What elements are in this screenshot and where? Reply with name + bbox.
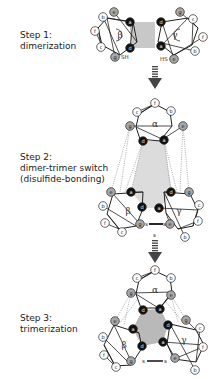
residue-node-f: f	[199, 33, 208, 42]
svg-text:b: b	[101, 14, 104, 20]
residue-node-e: e	[171, 354, 180, 363]
residue-node-g: g	[182, 316, 191, 325]
spoke-line	[107, 18, 115, 57]
svg-text:d: d	[141, 307, 144, 313]
s-label: s	[153, 232, 156, 238]
residue-node-d: d	[139, 306, 148, 315]
dotted-interaction-line	[115, 293, 131, 321]
dotted-interaction-line	[120, 300, 137, 323]
residue-node-a: a	[129, 325, 138, 334]
svg-text:f: f	[154, 267, 156, 273]
svg-text:g: g	[129, 358, 132, 365]
svg-text:a: a	[159, 43, 162, 49]
svg-text:d: d	[140, 343, 143, 349]
residue-node-c: c	[97, 43, 106, 52]
core-regions	[130, 22, 172, 346]
residue-node-e: e	[167, 291, 176, 300]
svg-text:d: d	[140, 204, 143, 210]
svg-text:f: f	[154, 100, 156, 106]
residue-node-c: c	[196, 324, 205, 333]
svg-text:d: d	[128, 45, 131, 51]
residue-node-d: d	[126, 44, 135, 53]
helix-label-step3-alpha: α	[152, 285, 158, 295]
svg-text:g: g	[128, 123, 131, 130]
residue-node-b: b	[99, 13, 108, 22]
residue-node-c: c	[133, 274, 142, 283]
svg-text:d: d	[166, 322, 169, 328]
residue-node-f: f	[151, 266, 160, 275]
residue-node-c: c	[189, 15, 198, 24]
residue-node-d: d	[138, 342, 147, 351]
residue-node-b: b	[99, 202, 108, 211]
residue-node-e: e	[111, 317, 120, 326]
svg-text:e: e	[113, 318, 116, 324]
residue-node-e: e	[170, 55, 179, 64]
residue-node-e: e	[107, 188, 116, 197]
switch-core	[131, 140, 172, 208]
s-label: s	[164, 358, 167, 364]
svg-text:d: d	[159, 19, 162, 25]
residue-node-f: f	[91, 27, 100, 36]
residue-node-f: f	[194, 217, 203, 226]
helix-step1-gamma: γdagcfbe	[157, 8, 208, 64]
svg-text:e: e	[173, 355, 176, 361]
sh-label: SH	[121, 54, 129, 60]
helix-label-step2-alpha: α	[152, 119, 158, 129]
svg-text:a: a	[129, 189, 132, 195]
svg-text:d: d	[169, 189, 172, 195]
svg-text:c: c	[136, 275, 139, 281]
svg-text:b: b	[183, 234, 186, 240]
residue-node-g: g	[126, 122, 135, 131]
residue-node-d: d	[139, 137, 148, 146]
residue-node-a: a	[155, 204, 164, 213]
svg-text:c: c	[198, 202, 201, 208]
residue-node-a: a	[160, 136, 169, 145]
residue-node-d: d	[167, 188, 176, 197]
residue-node-g: g	[136, 220, 145, 229]
svg-text:g: g	[129, 290, 132, 297]
residue-node-f: f	[199, 343, 208, 352]
svg-text:a: a	[131, 326, 134, 332]
svg-text:b: b	[169, 108, 172, 114]
s-label: s	[142, 358, 145, 364]
svg-text:b: b	[193, 48, 196, 54]
residue-node-b: b	[191, 47, 200, 56]
svg-text:c: c	[121, 229, 124, 235]
dotted-interaction-line	[120, 126, 130, 192]
residue-node-e: e	[166, 220, 175, 229]
helix-step2-alpha: αfcbgeda	[126, 99, 188, 146]
svg-text:d: d	[141, 138, 144, 144]
residue-node-a: a	[156, 305, 165, 314]
residue-node-c: c	[112, 363, 121, 372]
residue-node-f: f	[151, 99, 160, 108]
residue-node-g: g	[111, 53, 120, 62]
svg-text:e: e	[112, 9, 115, 15]
svg-text:f: f	[202, 34, 204, 40]
residue-node-c: c	[195, 201, 204, 210]
helix-label-step3-beta: β	[121, 340, 126, 350]
residue-node-g: g	[127, 289, 136, 298]
helix-label-step2-gamma: γ	[176, 206, 181, 216]
svg-text:a: a	[162, 137, 165, 143]
spoke-line	[170, 324, 195, 370]
dotted-interaction-line	[183, 126, 189, 192]
svg-text:g: g	[178, 9, 181, 16]
residue-node-d: d	[138, 203, 147, 212]
residue-node-g: g	[176, 8, 185, 17]
svg-text:c: c	[100, 44, 103, 50]
svg-text:e: e	[168, 221, 171, 227]
residue-node-d: d	[157, 18, 166, 27]
svg-text:e: e	[172, 56, 175, 62]
residue-node-f: f	[101, 219, 110, 228]
residue-node-a: a	[127, 188, 136, 197]
svg-text:a: a	[128, 19, 131, 25]
residue-node-a: a	[159, 338, 168, 347]
svg-text:b: b	[101, 203, 104, 209]
svg-text:b: b	[193, 367, 196, 373]
svg-text:c: c	[192, 16, 195, 22]
dotted-interaction-line	[166, 302, 182, 321]
svg-text:g: g	[113, 54, 116, 61]
svg-text:g: g	[184, 317, 187, 324]
arrow-step2-to-step3	[148, 240, 162, 263]
residue-node-b: b	[181, 233, 190, 242]
